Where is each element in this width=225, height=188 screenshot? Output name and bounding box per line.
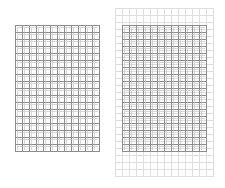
right-grid-panel [0, 0, 225, 188]
right-grid-subcells [124, 27, 205, 150]
